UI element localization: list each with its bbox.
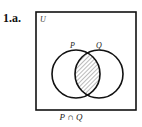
- venn-diagram: U P Q: [0, 0, 142, 127]
- set-p-label: P: [69, 41, 75, 50]
- universe-label: U: [40, 15, 47, 24]
- set-q-label: Q: [96, 41, 102, 50]
- caption: P ∩ Q: [0, 112, 142, 122]
